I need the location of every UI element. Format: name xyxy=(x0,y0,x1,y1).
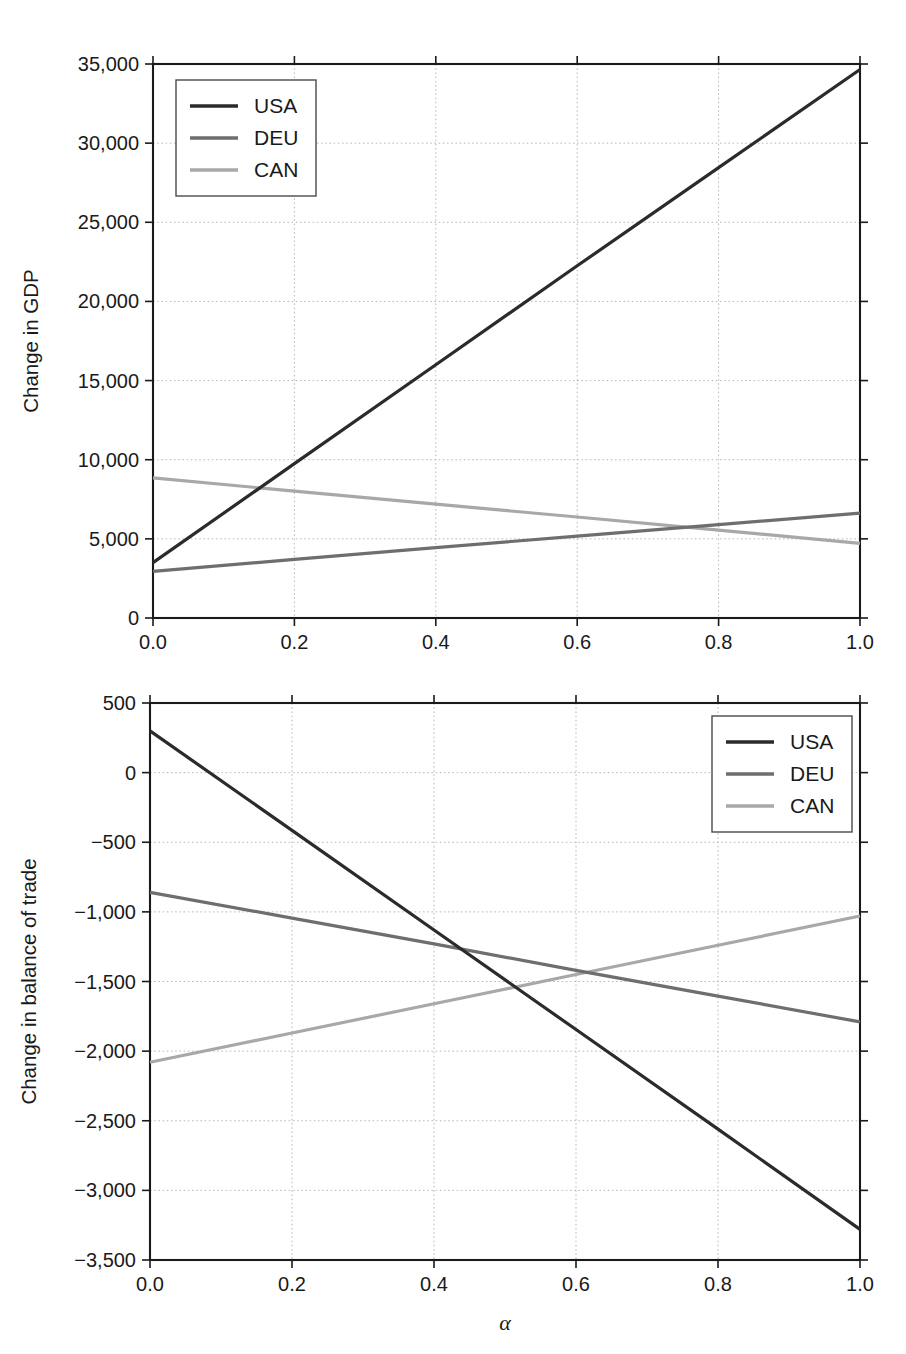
y-axis-title: Change in balance of trade xyxy=(17,858,40,1104)
y-tick-label: 500 xyxy=(103,692,136,714)
x-tick-label: 0.4 xyxy=(422,631,450,653)
series-line-deu xyxy=(153,513,860,571)
y-tick-label: 35,000 xyxy=(78,53,139,75)
x-axis-title: α xyxy=(501,668,513,676)
y-tick-label: 5,000 xyxy=(89,528,139,550)
legend-label-can: CAN xyxy=(790,794,834,817)
x-axis-title: α xyxy=(499,1310,511,1335)
y-tick-label: 20,000 xyxy=(78,290,139,312)
x-tick-label: 0.6 xyxy=(563,631,591,653)
y-tick-label: 0 xyxy=(125,762,136,784)
change-in-gdp-chart: 05,00010,00015,00020,00025,00030,00035,0… xyxy=(0,0,906,676)
x-tick-label: 0.6 xyxy=(562,1273,590,1295)
x-tick-label: 0.2 xyxy=(278,1273,306,1295)
y-tick-label: 15,000 xyxy=(78,370,139,392)
change-in-balance-of-trade-chart: −3,500−3,000−2,500−2,000−1,500−1,000−500… xyxy=(0,676,906,1354)
legend: USADEUCAN xyxy=(712,716,852,832)
x-tick-label: 0.8 xyxy=(704,1273,732,1295)
series-line-deu xyxy=(150,892,860,1022)
y-axis-title: Change in GDP xyxy=(19,269,42,413)
x-tick-label: 1.0 xyxy=(846,1273,874,1295)
y-tick-label: 10,000 xyxy=(78,449,139,471)
y-tick-label: −1,000 xyxy=(74,901,136,923)
x-tick-label: 0.0 xyxy=(136,1273,164,1295)
trade-plot-svg: −3,500−3,000−2,500−2,000−1,500−1,000−500… xyxy=(0,676,906,1354)
y-tick-label: −2,000 xyxy=(74,1040,136,1062)
y-tick-label: 25,000 xyxy=(78,211,139,233)
y-tick-label: 0 xyxy=(128,607,139,629)
x-tick-label: 0.4 xyxy=(420,1273,448,1295)
figure-page: 05,00010,00015,00020,00025,00030,00035,0… xyxy=(0,0,906,1354)
y-tick-label: −3,000 xyxy=(74,1179,136,1201)
legend-label-usa: USA xyxy=(254,94,297,117)
x-tick-label: 1.0 xyxy=(846,631,874,653)
x-tick-label: 0.8 xyxy=(705,631,733,653)
y-tick-label: −3,500 xyxy=(74,1249,136,1271)
legend-label-can: CAN xyxy=(254,158,298,181)
legend: USADEUCAN xyxy=(176,80,316,196)
y-tick-label: −500 xyxy=(91,831,136,853)
legend-label-usa: USA xyxy=(790,730,833,753)
legend-label-deu: DEU xyxy=(790,762,834,785)
y-tick-label: −1,500 xyxy=(74,971,136,993)
x-tick-label: 0.2 xyxy=(280,631,308,653)
y-tick-label: −2,500 xyxy=(74,1110,136,1132)
x-tick-label: 0.0 xyxy=(139,631,167,653)
gdp-plot-svg: 05,00010,00015,00020,00025,00030,00035,0… xyxy=(0,0,906,676)
series-line-can xyxy=(150,916,860,1062)
legend-label-deu: DEU xyxy=(254,126,298,149)
y-tick-label: 30,000 xyxy=(78,132,139,154)
